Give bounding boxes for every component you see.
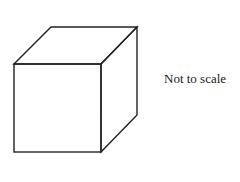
cube-front-face <box>14 64 101 152</box>
scale-caption: Not to scale <box>164 71 226 87</box>
cube-figure: Not to scale <box>0 0 240 182</box>
cube-drawing <box>0 0 240 182</box>
cube-right-face <box>101 27 137 152</box>
